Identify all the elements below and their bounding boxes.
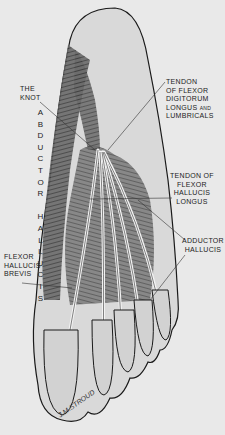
label-line: HALLUCIS	[182, 246, 224, 255]
label-word: LONGUS	[166, 104, 197, 111]
label-line: TENDON	[166, 78, 214, 87]
label-line: THE	[20, 85, 41, 94]
label-line: LUMBRICALS	[166, 112, 214, 121]
label-line: FLEXOR	[4, 253, 41, 262]
label-word: AND	[200, 105, 211, 111]
label-line: DIGITORUM	[166, 95, 214, 104]
label-line: KNOT	[20, 94, 41, 103]
label-line: HALLUCIS	[4, 262, 41, 271]
label-line: ADDUCTOR	[182, 237, 224, 246]
label-tendon-flexor-digitorum-longus: TENDON OF FLEXOR DIGITORUM LONGUS AND LU…	[166, 78, 214, 121]
label-line: TENDON OF	[170, 172, 214, 181]
label-line: LONGUS	[170, 198, 214, 207]
label-line: LONGUS AND	[166, 104, 214, 113]
label-tendon-flexor-hallucis-longus: TENDON OF FLEXOR HALLUCIS LONGUS	[170, 172, 214, 206]
label-line: OF FLEXOR	[166, 87, 214, 96]
label-flexor-hallucis-brevis: FLEXOR HALLUCIS BREVIS	[4, 253, 41, 279]
label-line: HALLUCIS	[170, 189, 214, 198]
label-the-knot: THE KNOT	[20, 85, 41, 102]
label-line: BREVIS	[4, 270, 41, 279]
label-line: FLEXOR	[170, 181, 214, 190]
foot-drawing	[0, 0, 225, 435]
anatomical-illustration: THE KNOT ABDUCTOR HALLUCIS TENDON OF FLE…	[0, 0, 225, 435]
label-adductor-hallucis: ADDUCTOR HALLUCIS	[182, 237, 224, 254]
